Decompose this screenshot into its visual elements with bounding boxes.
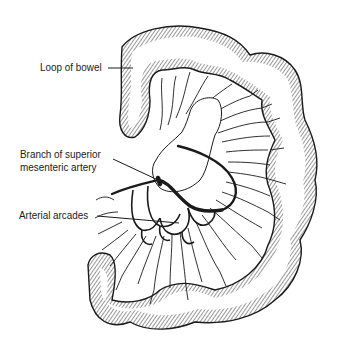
- leader-branch-sma: [113, 159, 158, 180]
- label-loop-of-bowel-line1: Loop of bowel: [40, 61, 102, 73]
- label-branch-line2: mesenteric artery: [20, 161, 101, 174]
- label-branch-of-superior-mesenteric-artery: Branch of superior mesenteric artery: [20, 148, 101, 174]
- label-arterial-arcades: Arterial arcades: [19, 209, 88, 222]
- label-branch-line1: Branch of superior: [20, 148, 101, 161]
- label-arterial-arcades-line1: Arterial arcades: [19, 209, 88, 221]
- leader-arterial-arcades: [97, 216, 179, 223]
- bowel-loop: [88, 26, 317, 329]
- bowel-mesentery-illustration: [0, 0, 337, 348]
- label-loop-of-bowel: Loop of bowel: [40, 61, 102, 74]
